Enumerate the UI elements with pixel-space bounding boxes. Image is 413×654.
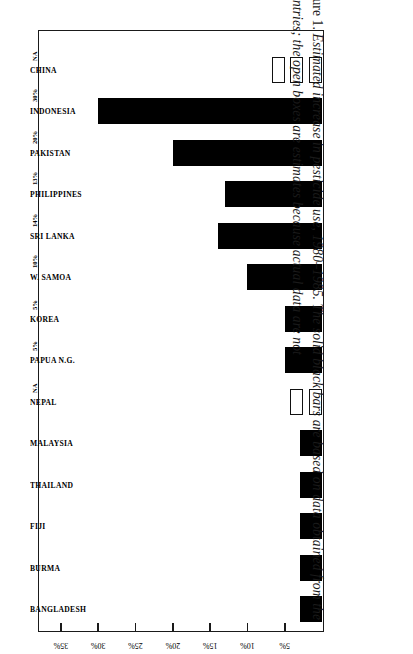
axis-tick (60, 623, 62, 632)
category-label: FIJI (30, 522, 46, 531)
category-value-label: 20% (31, 131, 38, 144)
category-label: W. SAMOA (30, 273, 71, 282)
caption-lead: Figure 1. (310, 0, 325, 30)
category-value-label: 10% (31, 255, 38, 268)
figure-root: Percent Increase in Pesticide Use 5%10%1… (0, 0, 413, 654)
category-label: KOREA (30, 315, 59, 324)
axis-tick (135, 623, 137, 632)
axis-tick-label: 25% (121, 641, 151, 650)
category-label: BURMA (30, 564, 60, 573)
category-value-label: 30% (31, 89, 38, 102)
axis-tick-label: 30% (83, 641, 113, 650)
category-value-label: 13% (31, 172, 38, 185)
figure-caption: Figure 1. Estimated increase in pesticid… (253, 0, 333, 654)
category-label: PAPUA N.G. (30, 356, 75, 365)
axis-tick-label: 15% (195, 641, 225, 650)
category-value-label: 14% (31, 214, 38, 227)
axis-tick (97, 623, 99, 632)
category-label: INDONESIA (30, 107, 76, 116)
category-label: PHILIPPINES (30, 190, 82, 199)
category-label: MALAYSIA (30, 439, 73, 448)
category-label: BANGLADESH (30, 605, 86, 614)
axis-tick (209, 623, 211, 632)
axis-tick (172, 623, 174, 632)
category-value-label: 5% (31, 341, 38, 351)
category-label: THAILAND (30, 481, 73, 490)
category-label: PAKISTAN (30, 149, 71, 158)
axis-tick-label: 20% (158, 641, 188, 650)
category-label: SRI LANKA (30, 232, 75, 241)
caption-body: Estimated increase in pesticide use, 198… (290, 0, 325, 620)
category-label: NEPAL (30, 398, 57, 407)
category-value-label: 5% (31, 300, 38, 310)
category-label: CHINA (30, 66, 57, 75)
axis-tick-label: 35% (46, 641, 76, 650)
axis-tick (247, 623, 249, 632)
category-value-label: NA (31, 383, 38, 393)
category-value-label: NA (31, 51, 38, 61)
